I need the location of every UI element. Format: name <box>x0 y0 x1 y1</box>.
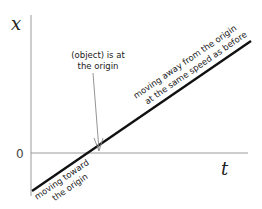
position-line <box>32 41 251 191</box>
annotation-moving-away: moving away from the origin at the same … <box>131 20 248 110</box>
annotation-at-origin-line2: the origin <box>78 61 119 71</box>
annotation-at-origin-line1: (object) is at <box>71 50 125 60</box>
svg-text:at the same speed as before: at the same speed as before <box>143 29 249 106</box>
y-axis-label: x <box>11 13 21 34</box>
position-time-diagram: x t 0 (object) is at the origin moving a… <box>0 0 262 209</box>
origin-label: 0 <box>16 147 24 161</box>
x-axis-label: t <box>221 158 229 179</box>
